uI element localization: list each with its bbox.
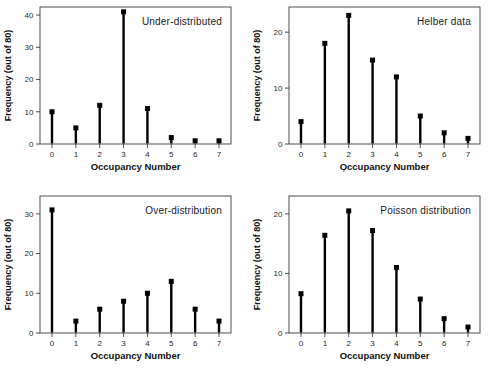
stem-marker xyxy=(370,58,375,63)
x-tick-label: 5 xyxy=(169,150,174,159)
x-axis-label: Occupancy Number xyxy=(289,350,480,361)
plot-frame xyxy=(289,196,480,333)
stem-marker xyxy=(465,325,470,330)
x-tick-label: 2 xyxy=(346,150,351,159)
stem-marker xyxy=(346,208,351,213)
stem-marker xyxy=(73,125,78,130)
x-tick-label: 0 xyxy=(50,339,55,348)
y-tick-label: 0 xyxy=(29,329,34,338)
plot-frame xyxy=(40,196,231,333)
stem-marker xyxy=(145,291,150,296)
stem-marker xyxy=(169,135,174,140)
x-tick-label: 1 xyxy=(74,150,79,159)
y-tick-label: 20 xyxy=(274,210,283,219)
x-tick-label: 1 xyxy=(323,150,328,159)
x-tick-label: 7 xyxy=(466,339,471,348)
panel-helber-data: 0102001234567 Helber data Occupancy Numb… xyxy=(249,0,497,189)
y-tick-label: 10 xyxy=(25,108,34,117)
x-tick-label: 3 xyxy=(370,339,375,348)
x-tick-label: 0 xyxy=(50,150,55,159)
stem-marker xyxy=(145,106,150,111)
x-axis-label: Occupancy Number xyxy=(40,350,231,361)
y-tick-label: 10 xyxy=(25,289,34,298)
y-tick-label: 30 xyxy=(25,210,34,219)
stem-marker xyxy=(442,130,447,135)
stem-marker xyxy=(121,299,126,304)
panel-poisson-distribution: 0102001234567 Poisson distribution Occup… xyxy=(249,189,497,378)
stem-marker xyxy=(50,207,55,212)
x-tick-label: 7 xyxy=(217,339,222,348)
y-axis-label: Frequency (out of 80) xyxy=(3,196,14,333)
x-axis-label: Occupancy Number xyxy=(289,161,480,172)
panel-title: Helber data xyxy=(417,16,471,27)
stem-marker xyxy=(169,279,174,284)
x-tick-label: 2 xyxy=(97,150,102,159)
x-tick-label: 4 xyxy=(145,150,150,159)
x-tick-label: 0 xyxy=(299,339,304,348)
x-tick-label: 3 xyxy=(121,150,126,159)
y-axis-label: Frequency (out of 80) xyxy=(3,7,14,144)
y-tick-label: 0 xyxy=(29,140,34,149)
x-tick-label: 6 xyxy=(442,150,447,159)
x-tick-label: 1 xyxy=(74,339,79,348)
x-tick-label: 1 xyxy=(323,339,328,348)
stem-marker xyxy=(418,114,423,119)
y-axis-label: Frequency (out of 80) xyxy=(252,196,263,333)
stem-marker xyxy=(465,136,470,141)
plot-frame xyxy=(289,7,480,144)
panel-title: Poisson distribution xyxy=(380,205,471,216)
stem-marker xyxy=(394,74,399,79)
stem-marker xyxy=(73,319,78,324)
stem-marker xyxy=(346,13,351,18)
stem-marker xyxy=(322,233,327,238)
stem-marker xyxy=(394,265,399,270)
y-tick-label: 10 xyxy=(274,269,283,278)
x-tick-label: 4 xyxy=(145,339,150,348)
x-tick-label: 7 xyxy=(466,150,471,159)
y-tick-label: 0 xyxy=(278,329,283,338)
stem-marker xyxy=(322,41,327,46)
y-tick-label: 20 xyxy=(25,249,34,258)
x-tick-label: 5 xyxy=(418,339,423,348)
x-tick-label: 6 xyxy=(193,339,198,348)
figure-stem-plot-grid: 01020304001234567 Under-distributed Occu… xyxy=(0,0,497,378)
stem-marker xyxy=(370,228,375,233)
stem-marker xyxy=(50,109,55,114)
y-tick-label: 30 xyxy=(25,43,34,52)
stem-marker xyxy=(442,316,447,321)
stem-marker xyxy=(193,307,198,312)
x-tick-label: 4 xyxy=(394,339,399,348)
y-tick-label: 10 xyxy=(274,84,283,93)
stem-marker xyxy=(97,103,102,108)
panel-title: Under-distributed xyxy=(142,16,222,27)
panel-title: Over-distribution xyxy=(145,205,222,216)
stem-marker xyxy=(216,319,221,324)
x-tick-label: 7 xyxy=(217,150,222,159)
x-tick-label: 0 xyxy=(299,150,304,159)
panel-under-distributed: 01020304001234567 Under-distributed Occu… xyxy=(0,0,248,189)
y-axis-label: Frequency (out of 80) xyxy=(252,7,263,144)
y-tick-label: 40 xyxy=(25,11,34,20)
x-tick-label: 4 xyxy=(394,150,399,159)
stem-marker xyxy=(97,307,102,312)
x-tick-label: 3 xyxy=(370,150,375,159)
x-tick-label: 2 xyxy=(97,339,102,348)
x-axis-label: Occupancy Number xyxy=(40,161,231,172)
ink-speck xyxy=(343,170,345,172)
stem-marker xyxy=(193,138,198,143)
stem-marker xyxy=(121,9,126,14)
x-tick-label: 2 xyxy=(346,339,351,348)
stem-marker xyxy=(418,297,423,302)
x-tick-label: 3 xyxy=(121,339,126,348)
stem-marker xyxy=(299,119,304,124)
y-tick-label: 0 xyxy=(278,140,283,149)
y-tick-label: 20 xyxy=(274,28,283,37)
y-tick-label: 20 xyxy=(25,75,34,84)
stem-marker xyxy=(299,291,304,296)
x-tick-label: 5 xyxy=(169,339,174,348)
plot-frame xyxy=(40,7,231,144)
panel-over-distribution: 010203001234567 Over-distribution Occupa… xyxy=(0,189,248,378)
x-tick-label: 6 xyxy=(442,339,447,348)
x-tick-label: 5 xyxy=(418,150,423,159)
x-tick-label: 6 xyxy=(193,150,198,159)
